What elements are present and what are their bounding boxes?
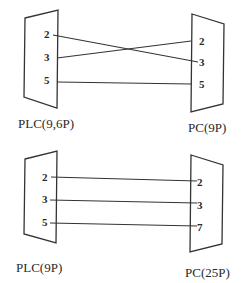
wire-5-to-7 <box>50 223 197 226</box>
pc-top-pin-1: 2 <box>199 35 205 47</box>
wire-3-to-3 <box>50 200 197 203</box>
pc-bottom-pin-3: 7 <box>197 221 203 233</box>
wire-3-to-2 <box>57 41 191 58</box>
pc-top-label: PC(9P) <box>188 120 226 135</box>
pc-top-pin-3: 5 <box>199 78 205 90</box>
plc-connector-top <box>24 10 58 108</box>
plc-bottom-pin-1: 2 <box>42 171 48 183</box>
wire-5-to-5 <box>57 82 191 84</box>
pc-connector-top <box>191 14 224 112</box>
plc-bottom-pin-3: 5 <box>42 216 48 228</box>
diagram-top: 2 3 5 2 3 5 PLC(9,6P) PC(9P) <box>18 10 226 135</box>
wiring-diagram: 2 3 5 2 3 5 PLC(9,6P) PC(9P) 2 3 5 2 3 7… <box>0 0 246 283</box>
plc-bottom-label: PLC(9P) <box>16 260 62 275</box>
pc-top-pin-2: 3 <box>199 56 205 68</box>
plc-top-pin-3: 5 <box>44 74 50 86</box>
wire-2-to-3 <box>53 35 198 62</box>
plc-top-pin-2: 3 <box>44 51 50 63</box>
plc-top-label: PLC(9,6P) <box>18 116 74 131</box>
wire-2-to-2 <box>51 177 197 181</box>
pc-bottom-pin-2: 3 <box>197 199 203 211</box>
diagram-bottom: 2 3 5 2 3 7 PLC(9P) PC(25P) <box>16 151 230 280</box>
pc-bottom-pin-1: 2 <box>197 176 203 188</box>
plc-top-pin-1: 2 <box>44 28 50 40</box>
plc-bottom-pin-2: 3 <box>42 193 48 205</box>
plc-connector-bottom <box>24 151 57 243</box>
pc-bottom-label: PC(25P) <box>185 265 230 280</box>
